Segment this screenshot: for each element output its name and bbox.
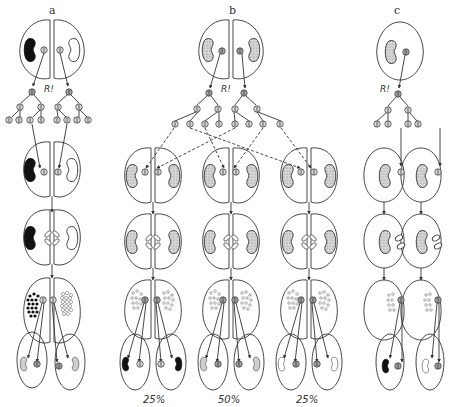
r-label-c: R! (380, 84, 390, 94)
subcol-1 (120, 148, 186, 390)
percentage-label-2: 50% (218, 394, 240, 405)
panel-label-c: c (394, 4, 400, 17)
panel-c (364, 22, 444, 390)
panel-b (120, 20, 342, 390)
subcol-3 (276, 148, 342, 390)
percentage-label-3: 25% (296, 394, 318, 405)
r-label-a: R! (44, 84, 54, 94)
panel-a (6, 20, 91, 390)
subcol-2 (198, 148, 264, 390)
genetics-diagram (0, 0, 456, 407)
panel-label-a: a (49, 4, 56, 17)
percentage-label-1: 25% (143, 394, 165, 405)
panel-label-b: b (229, 4, 236, 17)
r-label-b: R! (221, 84, 231, 94)
